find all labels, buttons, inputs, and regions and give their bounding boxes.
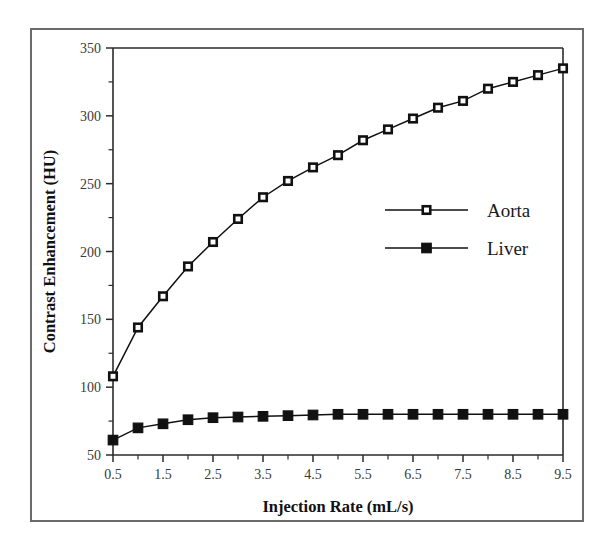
data-point-aorta (109, 373, 117, 381)
x-tick-label: 9.5 (554, 467, 572, 482)
data-point-aorta (484, 85, 492, 93)
data-point-liver (233, 412, 243, 422)
data-point-aorta (234, 215, 242, 223)
legend-label-liver: Liver (487, 238, 529, 259)
series-aorta (109, 65, 567, 380)
data-point-aorta (359, 137, 367, 145)
data-point-liver (108, 435, 118, 445)
data-point-liver (158, 419, 168, 429)
y-tick-label: 50 (87, 448, 101, 463)
data-point-liver (333, 410, 343, 420)
data-point-liver (383, 410, 393, 420)
x-tick-label: 5.5 (354, 467, 372, 482)
data-point-liver (458, 410, 468, 420)
data-point-aorta (309, 164, 317, 172)
x-tick-label: 1.5 (154, 467, 172, 482)
x-axis-title: Injection Rate (mL/s) (262, 497, 413, 516)
data-point-liver (183, 415, 193, 425)
x-tick-label: 8.5 (504, 467, 522, 482)
data-point-liver (208, 413, 218, 423)
y-axis-ticks (106, 48, 113, 455)
series-line-aorta (113, 68, 563, 376)
y-tick-label: 300 (80, 109, 101, 124)
x-tick-label: 3.5 (254, 467, 272, 482)
legend-marker-liver (422, 243, 432, 253)
data-point-aorta (284, 177, 292, 185)
x-axis-tick-labels: 0.51.52.53.54.55.56.57.58.59.5 (104, 467, 572, 482)
x-axis-ticks (113, 455, 563, 462)
data-point-aorta (334, 151, 342, 159)
data-point-aorta (384, 126, 392, 133)
y-tick-label: 200 (80, 245, 101, 260)
data-point-aorta (534, 71, 542, 79)
y-tick-label: 250 (80, 177, 101, 192)
data-point-liver (483, 410, 493, 420)
x-tick-label: 2.5 (204, 467, 222, 482)
data-point-aorta (509, 78, 517, 86)
data-point-aorta (209, 238, 217, 246)
y-axis-tick-labels: 50100150200250300350 (80, 41, 101, 463)
data-point-aorta (434, 104, 442, 112)
data-point-liver (258, 412, 268, 422)
data-point-aorta (459, 97, 467, 105)
legend-label-aorta: Aorta (487, 200, 531, 221)
data-point-aorta (559, 65, 567, 73)
data-point-liver (308, 410, 318, 420)
data-point-aorta (159, 293, 167, 301)
data-point-liver (408, 410, 418, 420)
data-point-liver (133, 423, 143, 433)
data-point-aorta (184, 263, 192, 271)
x-tick-label: 0.5 (104, 467, 122, 482)
data-point-liver (558, 410, 568, 420)
data-point-liver (508, 410, 518, 420)
data-point-liver (533, 410, 543, 420)
chart-canvas: 50100150200250300350 0.51.52.53.54.55.56… (0, 0, 603, 540)
x-tick-label: 7.5 (454, 467, 472, 482)
series-liver (108, 410, 568, 445)
data-point-liver (283, 411, 293, 421)
legend-marker-aorta (423, 206, 431, 214)
data-point-liver (358, 410, 368, 420)
y-tick-label: 100 (80, 380, 101, 395)
chart-legend: AortaLiver (385, 200, 531, 259)
y-axis-title: Contrast Enhancement (HU) (40, 150, 59, 354)
x-tick-label: 6.5 (404, 467, 422, 482)
data-point-aorta (134, 324, 142, 332)
y-tick-label: 150 (80, 312, 101, 327)
y-tick-label: 350 (80, 41, 101, 56)
data-point-aorta (259, 193, 267, 201)
figure-page: 50100150200250300350 0.51.52.53.54.55.56… (0, 0, 603, 540)
x-tick-label: 4.5 (304, 467, 322, 482)
data-point-liver (433, 410, 443, 420)
data-point-aorta (409, 115, 417, 123)
